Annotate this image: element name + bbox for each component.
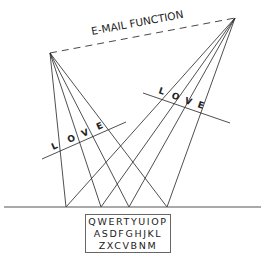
keyboard-row-2: ASDFGHJKL (94, 228, 163, 240)
keyboard-box: QWERTYUIOP ASDFGHJKL ZXCVBNM (85, 214, 171, 253)
keyboard-row-3: ZXCVBNM (99, 240, 157, 252)
email-function-label: E-MAIL FUNCTION (90, 8, 184, 37)
svg-text:L: L (157, 85, 166, 96)
svg-text:E: E (196, 99, 205, 110)
svg-text:O: O (170, 90, 181, 102)
svg-text:L: L (50, 140, 60, 152)
right-love-letters: L O V E (157, 85, 205, 110)
keyboard-row-1: QWERTYUIOP (88, 216, 167, 228)
svg-text:O: O (66, 132, 77, 144)
right-apex-rays (66, 18, 235, 207)
svg-text:V: V (183, 95, 193, 107)
svg-text:E: E (95, 120, 105, 132)
